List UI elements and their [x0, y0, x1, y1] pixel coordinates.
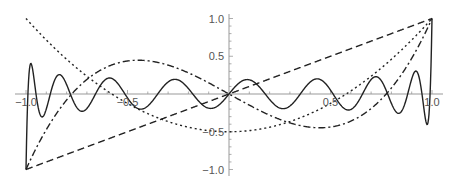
y-tick-label: 1.0	[209, 13, 224, 25]
x-tick-label: 1.0	[424, 96, 439, 108]
y-tick-label: 0.5	[209, 50, 224, 62]
legendre-polynomials-chart: −1.0−0.50.51.01.00.5−0.5−1.0	[0, 0, 452, 187]
y-tick-label: −1.0	[202, 164, 224, 176]
y-tick-label: −0.5	[202, 126, 224, 138]
x-tick-label: −0.5	[117, 96, 139, 108]
x-tick-label: 0.5	[323, 96, 338, 108]
x-tick-label: −1.0	[15, 96, 37, 108]
